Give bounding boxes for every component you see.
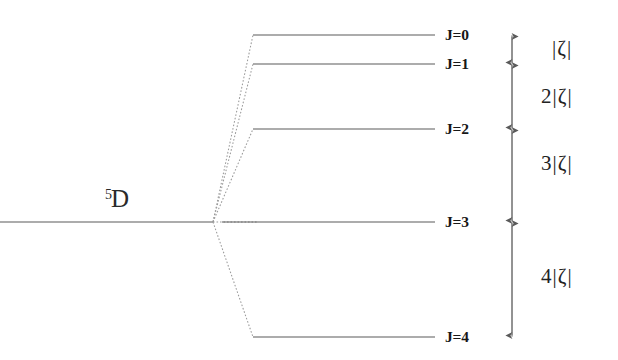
diagram-canvas [0,0,618,360]
interval-label-4-zeta: 4|ζ| [541,264,573,289]
interval-label-3-zeta: 3|ζ| [541,151,573,176]
term-letter: D [111,185,129,212]
interval-label-1-zeta: |ζ| [552,36,572,61]
term-multiplicity: 5 [105,187,112,202]
level-label-j0: J=0 [445,26,469,44]
energy-level-diagram: 5D J=0 J=1 J=2 J=3 J=4 |ζ| 2|ζ| 3|ζ| 4|ζ… [0,0,618,360]
dotted-line-to-j1 [213,64,253,222]
level-label-j4: J=4 [445,328,469,346]
split-level-lines [222,35,435,337]
level-label-j2: J=2 [445,120,469,138]
dotted-line-to-j4 [213,222,253,337]
dotted-line-to-j0 [213,35,253,222]
term-symbol-5d: 5D [104,186,129,211]
level-label-j1: J=1 [445,55,469,73]
correlation-dotted-lines [213,35,258,337]
interval-label-2-zeta: 2|ζ| [541,84,573,109]
level-label-j3: J=3 [445,213,469,231]
